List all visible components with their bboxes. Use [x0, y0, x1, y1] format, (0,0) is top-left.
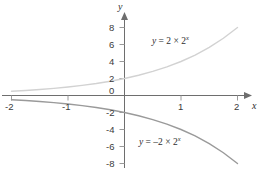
- y-tick-label-neg8: -8: [106, 159, 114, 169]
- y-tick-label-4: 4: [109, 57, 114, 67]
- y-axis-label: y: [118, 2, 122, 12]
- lower-label-equation: = –2 × 2: [143, 137, 177, 147]
- y-tick-label-6: 6: [109, 40, 114, 50]
- y-tick-label-neg4: -4: [106, 125, 114, 135]
- y-tick-label-0: 0: [109, 86, 114, 96]
- x-tick-label-1: 1: [178, 102, 183, 112]
- y-tick-label-2: 2: [109, 74, 114, 84]
- upper-curve-label: y = 2 × 2x: [152, 37, 189, 47]
- x-tick-label-2: 2: [234, 102, 239, 112]
- y-axis-arrowhead: [121, 12, 128, 20]
- y-tick-label-neg2: -2: [106, 108, 114, 118]
- x-tick-label-neg1: -1: [62, 102, 70, 112]
- lower-label-exponent: x: [178, 135, 181, 142]
- graph-canvas: [0, 0, 262, 172]
- upper-label-exponent: x: [186, 34, 189, 41]
- y-tick-label-neg6: -6: [106, 142, 114, 152]
- lower-curve-label: y = –2 × 2x: [139, 138, 181, 148]
- y-tick-label-8: 8: [109, 23, 114, 33]
- x-axis-label: x: [252, 101, 256, 111]
- x-axis-arrowhead: [244, 92, 252, 99]
- x-tick-label-neg2: -2: [5, 102, 13, 112]
- upper-label-equation: = 2 × 2: [156, 36, 186, 46]
- exponential-functions-graph: 8 6 4 2 0 -2 -4 -6 -8 -2 -1 1 2 y x y = …: [0, 0, 262, 172]
